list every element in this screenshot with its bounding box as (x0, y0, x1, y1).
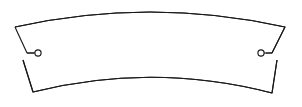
technical-drawing-canvas (0, 0, 302, 107)
left-pivot-hole-icon (35, 50, 41, 56)
right-pivot-hole-icon (258, 50, 264, 56)
left-upper-end-edge (15, 27, 27, 53)
arc-segment-svg (0, 0, 302, 107)
arc-segment-body (15, 12, 285, 93)
